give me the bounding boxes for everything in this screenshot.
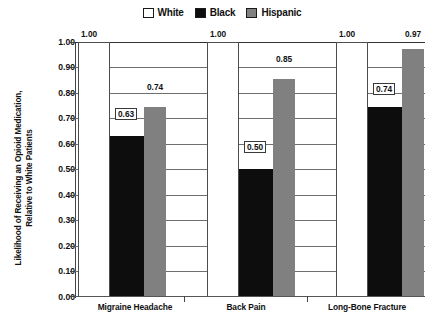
x-axis-baseline [75, 296, 425, 297]
x-category-label-migraine-headache: Migraine Headache [85, 303, 185, 311]
bar-back-pain-white[interactable] [207, 42, 239, 296]
x-tick-separator-1 [184, 296, 185, 302]
value-label-migraine-headache-white: 1.00 [80, 30, 98, 38]
plot-top-rule [75, 42, 425, 43]
bar-migraine-headache-black[interactable] [110, 136, 144, 296]
x-category-label-back-pain: Back Pain [196, 303, 296, 311]
value-label-long-bone-fracture-hispanic: 0.97 [404, 30, 422, 38]
bar-migraine-headache-white[interactable] [78, 42, 110, 296]
x-category-label-long-bone-fracture: Long-Bone Fracture [312, 303, 422, 311]
gridline-0-90 [75, 67, 425, 68]
value-label-back-pain-white: 1.00 [209, 30, 227, 38]
y-tick-label-0-00: 0.00 [41, 293, 75, 302]
bar-back-pain-hispanic[interactable] [273, 79, 295, 296]
value-label-back-pain-hispanic: 0.85 [275, 55, 293, 63]
bar-migraine-headache-hispanic[interactable] [144, 107, 166, 296]
bar-long-bone-fracture-hispanic[interactable] [402, 49, 424, 296]
plot-area [75, 42, 425, 297]
value-label-long-bone-fracture-white: 1.00 [338, 30, 356, 38]
value-label-long-bone-fracture-black: 0.74 [373, 83, 395, 95]
value-label-back-pain-black: 0.50 [244, 141, 266, 153]
bar-long-bone-fracture-white[interactable] [336, 42, 368, 296]
bar-back-pain-black[interactable] [239, 169, 273, 296]
value-label-migraine-headache-black: 0.63 [115, 108, 137, 120]
x-tick-separator-2 [307, 296, 308, 302]
bar-long-bone-fracture-black[interactable] [368, 107, 402, 296]
value-label-migraine-headache-hispanic: 0.74 [146, 83, 164, 91]
